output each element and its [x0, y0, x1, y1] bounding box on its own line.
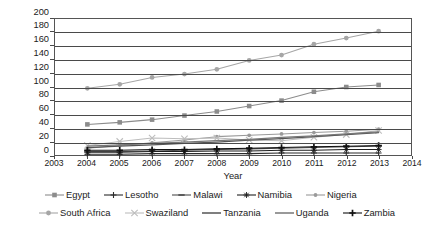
line-chart: Number of scientific and technical journ…	[0, 0, 424, 235]
legend-item-malawi[interactable]: Malawi	[171, 189, 222, 201]
x-axis-tick-label: 2006	[142, 159, 161, 168]
x-axis-tick-label: 2004	[77, 159, 96, 168]
legend-item-south-africa[interactable]: South Africa	[38, 207, 111, 219]
gridline	[55, 143, 411, 144]
legend-item-nigeria[interactable]: Nigeria	[305, 189, 357, 201]
series-egypt	[85, 82, 381, 126]
legend-label: Nigeria	[327, 189, 357, 201]
y-axis-tick-label: 100	[33, 77, 49, 86]
legend-marker-line-icon	[274, 207, 295, 219]
legend-label: Uganda	[296, 207, 329, 219]
x-axis-tick-label: 2007	[175, 159, 194, 168]
y-axis-tick-label: 140	[33, 49, 49, 58]
gridline	[55, 88, 411, 89]
legend-item-swaziland[interactable]: Swaziland	[124, 207, 189, 219]
legend-item-uganda[interactable]: Uganda	[274, 207, 329, 219]
legend-label: Namibia	[258, 189, 292, 201]
legend-marker-x-icon	[124, 207, 145, 219]
x-axis-tick-label: 2003	[44, 159, 63, 168]
y-axis-tick-label: 160	[33, 35, 49, 44]
legend-label: South Africa	[60, 207, 111, 219]
legend-row-2: South AfricaSwazilandTanzaniaUgandaZambi…	[30, 204, 414, 222]
x-axis-tick-label: 2005	[110, 159, 129, 168]
plot-area	[54, 18, 412, 156]
gridline	[55, 60, 411, 61]
legend-marker-plus-bold-icon	[342, 207, 363, 219]
x-axis-tick-label: 2012	[337, 159, 356, 168]
legend-marker-line-icon	[201, 207, 222, 219]
series-lines	[55, 19, 411, 155]
legend-label: Tanzania	[223, 207, 261, 219]
legend-marker-star-icon	[236, 189, 257, 201]
legend-item-zambia[interactable]: Zambia	[342, 207, 395, 219]
x-axis-tick-label: 2009	[240, 159, 259, 168]
chart-legend: EgyptLesothoMalawiNamibiaNigeria South A…	[30, 186, 414, 226]
x-axis-tick-label: 2014	[402, 159, 421, 168]
legend-item-namibia[interactable]: Namibia	[236, 189, 292, 201]
y-axis-tick-label: 180	[33, 22, 49, 31]
x-axis-tick-label: 2010	[272, 159, 291, 168]
legend-label: Zambia	[364, 207, 395, 219]
y-axis-tick-label: 120	[33, 63, 49, 72]
y-axis-tick-label: 80	[39, 91, 49, 100]
gridline	[55, 115, 411, 116]
legend-marker-square-icon	[44, 189, 65, 201]
gridline	[55, 32, 411, 33]
y-axis-tick-label: 40	[39, 118, 49, 127]
legend-label: Egypt	[66, 189, 90, 201]
legend-marker-plus-icon	[103, 189, 124, 201]
gridline	[55, 74, 411, 75]
x-axis-tick-label: 2011	[305, 159, 323, 168]
y-axis-tick-label: 60	[39, 104, 49, 113]
x-axis-title: Year	[54, 170, 412, 181]
legend-row-1: EgyptLesothoMalawiNamibiaNigeria	[30, 186, 414, 204]
gridline	[55, 129, 411, 130]
gridline	[55, 101, 411, 102]
legend-marker-dash-icon	[171, 189, 192, 201]
legend-item-egypt[interactable]: Egypt	[44, 189, 90, 201]
y-axis-tick-label: 200	[33, 8, 49, 17]
x-axis-tick-label: 2013	[370, 159, 389, 168]
legend-item-lesotho[interactable]: Lesotho	[103, 189, 158, 201]
x-axis-tick-label: 2008	[207, 159, 226, 168]
gridline	[55, 46, 411, 47]
legend-marker-circle-icon	[38, 207, 59, 219]
legend-item-tanzania[interactable]: Tanzania	[201, 207, 261, 219]
legend-label: Malawi	[193, 189, 222, 201]
legend-label: Lesotho	[125, 189, 158, 201]
y-axis-tick-labels: 020406080100120140160180200	[22, 12, 49, 158]
y-axis-tick-label: 20	[39, 132, 49, 141]
legend-label: Swaziland	[146, 207, 189, 219]
legend-marker-dot-icon	[305, 189, 326, 201]
